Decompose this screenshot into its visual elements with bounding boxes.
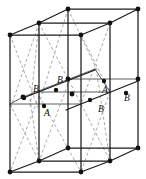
lattice-node-corner-bot-back-right (136, 146, 141, 151)
lattice-node-corner-bot-front-left (8, 170, 13, 175)
lattice-node-corner-mid-back-left (66, 77, 71, 82)
site-label-a-mid-right: A (101, 85, 108, 95)
lattice-node-corner-top-mid-left (37, 21, 42, 26)
site-label-a-front-left: A (43, 108, 50, 118)
site-label-b-right: B (124, 93, 130, 103)
midplane-edge-group (10, 69, 138, 104)
cell-edge-bot-midright-to-frontmid (81, 161, 110, 172)
cell-edge-top-back-left-to-midleft (39, 9, 68, 23)
dashed-edge-diag-lower-right-a (81, 104, 110, 161)
cell-edge-bot-back-right-to-midrt (110, 148, 138, 161)
lattice-node-corner-top-back-left (66, 7, 71, 12)
lattice-node-corner-bot-mid-left (37, 159, 42, 164)
lattice-node-site-b-upper-left (22, 96, 26, 100)
dashed-edge-diag-upper-right-c (68, 9, 97, 70)
lattice-node-corner-top-front-mid (79, 33, 84, 38)
cell-edge-top-midright-to-frontmid (81, 23, 110, 35)
cell-edge-bot-midleft-to-frontleft (10, 161, 39, 172)
lattice-node-corner-top-front-left (8, 33, 13, 38)
lattice-node-site-a-mid-right (102, 79, 106, 83)
lattice-node-corner-top-back-right (136, 7, 141, 12)
dashed-edge-diag-upper-right-a (81, 35, 110, 92)
site-label-b-front-mid: B (98, 104, 104, 114)
dashed-edge-diag-lower-right-b (81, 92, 110, 172)
lattice-node-site-b-front-mid (88, 98, 92, 102)
cell-edge-top-midleft-to-frontleft (10, 23, 39, 35)
site-label-b-upper-left: B (33, 84, 39, 94)
lattice-node-corner-bot-mid-right (108, 159, 113, 164)
lattice-node-corner-mid-back-right (136, 77, 141, 82)
lattice-node-corner-top-mid-right (108, 21, 113, 26)
lattice-diagram: BBABAB (0, 0, 146, 179)
lattice-figure: BBABAB (0, 0, 146, 179)
lattice-node-corner-bot-back-left (66, 146, 71, 151)
lattice-node-corner-bot-front-mid (79, 170, 84, 175)
dashed-edge-diag-lower-left-b (10, 96, 39, 172)
site-label-b-upper-mid: B (57, 75, 63, 85)
cell-edge-top-back-right-to-midrt (110, 9, 138, 23)
lattice-node-site-center-plane (70, 92, 74, 96)
lattice-node-site-b-upper-mid (54, 88, 58, 92)
